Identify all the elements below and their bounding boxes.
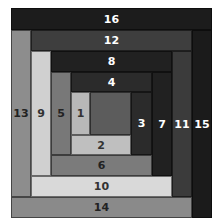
strip-8: 8: [51, 51, 172, 72]
strip-11: 11: [172, 51, 192, 197]
strip-14: 14: [11, 197, 192, 218]
strip-4: 4: [71, 72, 152, 92]
strip-2: 2: [71, 135, 131, 155]
strip-3: 3: [131, 92, 152, 155]
strip-7: 7: [152, 72, 172, 176]
strip-1: 1: [71, 92, 90, 135]
strip-9: 9: [31, 51, 51, 176]
strip-15: 15: [192, 30, 212, 218]
strip-12: 12: [31, 30, 192, 51]
strip-10: 10: [31, 176, 172, 197]
center: [90, 92, 131, 135]
strip-16: 16: [11, 8, 212, 30]
strip-6: 6: [51, 155, 152, 176]
strip-5: 5: [51, 72, 71, 155]
strip-13: 13: [11, 30, 31, 197]
